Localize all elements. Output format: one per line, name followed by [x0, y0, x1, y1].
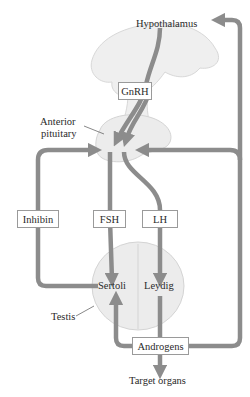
anterior-pituitary-label-line1: Anterior [40, 116, 76, 128]
diagram-canvas [0, 0, 250, 397]
sertoli-label: Sertoli [98, 280, 126, 292]
testis-pointer [76, 306, 94, 316]
testis-label: Testis [51, 311, 75, 323]
gnrh-box: GnRH [118, 82, 152, 100]
androgens-to-pituitary-arrow [142, 150, 240, 160]
anterior-pituitary-label-line2: pituitary [41, 128, 77, 140]
leydig-label: Leydig [144, 280, 174, 292]
inhibin-box: Inhibin [17, 210, 59, 228]
fsh-box: FSH [93, 210, 126, 228]
lh-box: LH [142, 210, 178, 228]
target-organs-label: Target organs [129, 375, 186, 387]
androgens-box: Androgens [132, 337, 189, 355]
hypothalamus-label: Hypothalamus [136, 18, 197, 30]
